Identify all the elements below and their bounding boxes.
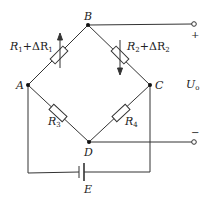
output-voltage-label: Uo — [186, 78, 200, 92]
r4-label: R4 — [124, 115, 138, 129]
terminal-positive — [192, 22, 197, 27]
node-d-label: D — [83, 146, 93, 159]
plus-sign: + — [191, 29, 199, 40]
output-wire-top — [88, 24, 192, 25]
supply-wire-bottom-left — [28, 172, 79, 173]
bridge-circuit-diagram: B A C D R1+ΔR1 R2+ΔR2 R3 R4 E Uo + − — [0, 0, 208, 201]
terminal-negative — [192, 140, 197, 145]
minus-sign: − — [191, 127, 199, 138]
node-a-dot — [26, 83, 30, 87]
resistor-r1 — [50, 46, 68, 64]
node-d-dot — [87, 140, 91, 144]
node-c-label: C — [155, 79, 164, 92]
r1-label: R1+ΔR1 — [9, 40, 53, 54]
source-label: E — [83, 183, 92, 196]
node-c-dot — [148, 83, 152, 87]
battery-icon — [79, 163, 84, 181]
r2-label: R2+ΔR2 — [126, 40, 170, 54]
node-a-label: A — [15, 79, 24, 92]
node-b-label: B — [83, 10, 92, 23]
node-b-dot — [86, 23, 90, 27]
